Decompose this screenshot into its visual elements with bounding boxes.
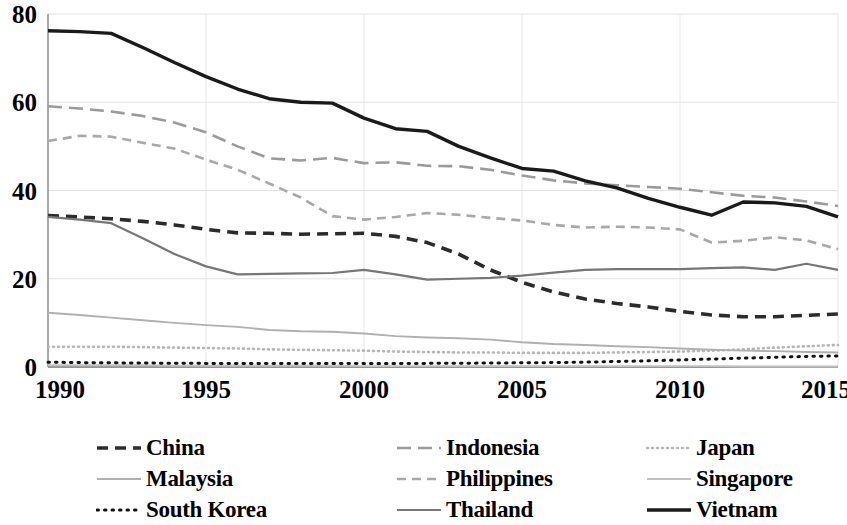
legend-label: Philippines	[446, 467, 553, 490]
series-line-malaysia	[48, 313, 838, 353]
x-axis-tick-label: 1990	[35, 376, 85, 400]
legend-swatch-icon	[96, 441, 142, 455]
chart-legend: ChinaIndonesiaJapanMalaysiaPhilippinesSi…	[0, 432, 847, 525]
legend-item-thailand[interactable]: Thailand	[396, 494, 646, 525]
legend-item-south-korea[interactable]: South Korea	[96, 494, 396, 525]
legend-swatch-icon	[96, 503, 142, 517]
legend-swatch-icon	[646, 441, 692, 455]
y-axis-tick-label: 60	[12, 89, 37, 116]
y-axis-tick-label: 80	[12, 1, 37, 28]
legend-label: Japan	[696, 436, 755, 459]
legend-swatch-icon	[396, 503, 442, 517]
legend-item-philippines[interactable]: Philippines	[396, 463, 646, 494]
legend-swatch-icon	[396, 441, 442, 455]
plot-area: 020406080199019952000200520102015	[0, 0, 847, 400]
legend-swatch-icon	[396, 472, 442, 486]
x-axis-tick-label: 2010	[655, 376, 705, 400]
legend-swatch-icon	[96, 472, 142, 486]
legend-label: Thailand	[446, 498, 533, 521]
x-axis-tick-label: 2000	[339, 376, 389, 400]
x-axis-tick-label: 2005	[497, 376, 547, 400]
chart-canvas: 020406080199019952000200520102015	[0, 0, 847, 400]
legend-label: Indonesia	[446, 436, 539, 459]
x-axis-tick-label: 2015	[801, 376, 847, 400]
legend-item-malaysia[interactable]: Malaysia	[96, 463, 396, 494]
legend-label: South Korea	[146, 498, 267, 521]
series-line-singapore	[48, 365, 838, 366]
y-axis-tick-label: 40	[12, 178, 37, 205]
legend-label: Singapore	[696, 467, 793, 490]
legend-item-japan[interactable]: Japan	[646, 432, 847, 463]
legend-item-indonesia[interactable]: Indonesia	[396, 432, 646, 463]
series-line-vietnam	[48, 31, 838, 217]
legend-swatch-icon	[646, 503, 692, 517]
legend-label: Vietnam	[696, 498, 777, 521]
legend-item-singapore[interactable]: Singapore	[646, 463, 847, 494]
line-chart: 020406080199019952000200520102015 ChinaI…	[0, 0, 847, 525]
legend-item-vietnam[interactable]: Vietnam	[646, 494, 847, 525]
series-line-japan	[48, 345, 838, 353]
x-axis-tick-label: 1995	[181, 376, 231, 400]
y-axis-tick-label: 20	[12, 266, 37, 293]
series-line-china	[48, 216, 838, 317]
series-line-south-korea	[48, 356, 838, 364]
legend-swatch-icon	[646, 472, 692, 486]
legend-label: China	[146, 436, 205, 459]
legend-label: Malaysia	[146, 467, 233, 490]
legend-item-china[interactable]: China	[96, 432, 396, 463]
